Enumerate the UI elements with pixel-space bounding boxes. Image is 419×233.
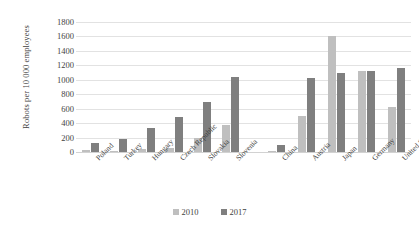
bar-2017	[307, 78, 315, 152]
x-tick-label: Hungary	[150, 156, 156, 162]
y-tick-label: 400	[61, 118, 74, 128]
legend-swatch-icon	[221, 209, 227, 215]
legend-label: 2017	[230, 207, 247, 217]
x-tick-label: Poland	[94, 156, 100, 162]
legend-item-2010[interactable]: 2010	[173, 207, 199, 217]
x-tick-label: Japan	[340, 156, 346, 162]
x-tick-label: Czech Republic	[178, 156, 184, 162]
chart-container: Robots per 10 000 employees 180016001400…	[0, 0, 419, 233]
bar-2017	[175, 117, 183, 152]
bar-group	[160, 22, 188, 152]
y-axis-title: Robots per 10 000 employees	[21, 7, 31, 147]
bar-2010	[358, 71, 366, 152]
bar-group	[261, 22, 291, 152]
y-tick-label: 1800	[57, 17, 74, 27]
y-tick-label: 1200	[57, 60, 74, 70]
y-tick-label: 1600	[57, 31, 74, 41]
bar-2017	[337, 73, 345, 152]
legend-item-2017[interactable]: 2017	[221, 207, 247, 217]
y-tick-label: 600	[61, 104, 74, 114]
x-tick-label: Turkey	[122, 156, 128, 162]
bar-2017	[147, 128, 155, 152]
bar-group	[321, 22, 351, 152]
legend-swatch-icon	[173, 209, 179, 215]
bar-2017	[119, 139, 127, 152]
bar-group	[104, 22, 132, 152]
x-tick-label: United States	[400, 156, 406, 162]
bar-group	[351, 22, 381, 152]
y-tick-label: 1000	[57, 75, 74, 85]
x-axis-labels: PolandTurkeyHungaryCzech RepublicSlovaki…	[76, 152, 411, 208]
bar-2010	[328, 36, 336, 152]
bar-2017	[367, 71, 375, 152]
bar-group	[291, 22, 321, 152]
chart-legend: 20102017	[0, 207, 419, 217]
bar-group	[216, 22, 244, 152]
bar-2017	[91, 143, 99, 152]
y-tick-label: 0	[70, 147, 74, 157]
bar-group-panel-left	[76, 22, 244, 152]
bar-group-panel-right	[261, 22, 411, 152]
y-tick-label: 200	[61, 133, 74, 143]
bar-group	[76, 22, 104, 152]
plot-area	[76, 22, 411, 152]
x-tick-label: China	[280, 156, 286, 162]
bar-2017	[231, 77, 239, 152]
x-tick-label: Germany	[370, 156, 376, 162]
x-tick-label: Slovenia	[234, 156, 240, 162]
x-tick-label: Austria	[310, 156, 316, 162]
legend-label: 2010	[182, 207, 199, 217]
bar-2017	[397, 68, 405, 153]
bar-group	[381, 22, 411, 152]
y-tick-label: 800	[61, 89, 74, 99]
y-tick-label: 1400	[57, 46, 74, 56]
bar-2010	[298, 116, 306, 152]
y-axis-ticks: 180016001400120010008006004002000	[40, 18, 74, 154]
x-tick-label: Slovakia	[206, 156, 212, 162]
bar-group	[132, 22, 160, 152]
